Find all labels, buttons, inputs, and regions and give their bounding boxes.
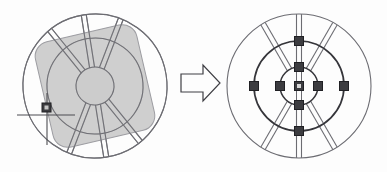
wheel-after-group	[227, 6, 371, 166]
marker-rim-right	[340, 82, 349, 91]
marker-hub-top	[295, 63, 304, 72]
wheel-before-overlines	[11, 0, 178, 172]
marker-rim-left	[250, 82, 259, 91]
marker-hub-right	[314, 82, 323, 91]
transformation-arrow	[181, 65, 220, 101]
marker-square-inner	[45, 106, 49, 110]
wheel-before-group	[11, 0, 178, 172]
marker-center	[295, 82, 304, 91]
marker-hub-left	[276, 82, 285, 91]
diagram-canvas	[0, 0, 387, 172]
marker-rim-top	[295, 37, 304, 46]
marker-hub-bottom	[295, 101, 304, 110]
arrow-shape	[181, 65, 220, 101]
diagram-svg	[0, 0, 387, 172]
marker-rim-bottom	[295, 127, 304, 136]
measurement-markers	[250, 37, 349, 136]
